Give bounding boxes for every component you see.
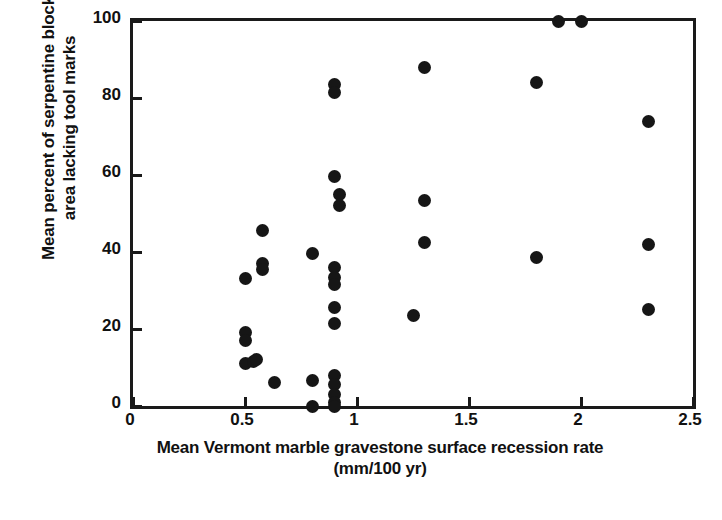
data-point: [328, 301, 341, 314]
x-tick-label: 2: [573, 410, 582, 430]
y-tick-label: 0: [112, 393, 121, 413]
data-point: [250, 353, 263, 366]
x-axis-tick: [356, 397, 359, 406]
x-tick-label: 2.5: [678, 410, 702, 430]
x-axis-tick: [692, 397, 695, 406]
data-point: [552, 15, 565, 28]
y-axis-tick: [133, 97, 142, 100]
y-axis-tick: [133, 174, 142, 177]
data-point: [530, 76, 543, 89]
x-axis-title-line1: Mean Vermont marble gravestone surface r…: [60, 437, 700, 458]
y-tick-label: 60: [102, 162, 121, 182]
data-point: [239, 272, 252, 285]
y-tick-label: 100: [93, 8, 121, 28]
data-point: [407, 309, 420, 322]
x-tick-label: 0.5: [230, 410, 254, 430]
data-point: [418, 61, 431, 74]
scatter-plot-figure: Mean percent of serpentine block area la…: [0, 0, 722, 520]
data-point: [328, 317, 341, 330]
data-point: [239, 334, 252, 347]
plot-area: [130, 18, 696, 409]
x-axis-tick-labels: 00.511.522.5: [130, 410, 690, 434]
y-axis-tick-labels: 020406080100: [58, 18, 121, 403]
data-point: [328, 170, 341, 183]
y-axis-title-line1: Mean percent of serpentine block: [39, 0, 60, 260]
y-axis-tick: [133, 251, 142, 254]
x-tick-label: 1.5: [454, 410, 478, 430]
data-point: [418, 236, 431, 249]
y-tick-label: 20: [102, 316, 121, 336]
data-point: [333, 199, 346, 212]
data-point: [642, 115, 655, 128]
x-tick-label: 0: [125, 410, 134, 430]
data-point: [306, 247, 319, 260]
y-axis-tick: [133, 20, 142, 23]
plot-inner: [133, 21, 693, 406]
y-tick-label: 80: [102, 85, 121, 105]
data-point: [328, 86, 341, 99]
x-axis-title: Mean Vermont marble gravestone surface r…: [60, 437, 700, 480]
data-point: [256, 263, 269, 276]
data-point: [575, 15, 588, 28]
x-axis-tick: [132, 397, 135, 406]
y-axis-tick: [133, 328, 142, 331]
x-axis-tick: [468, 397, 471, 406]
x-axis-tick: [244, 397, 247, 406]
data-point: [530, 251, 543, 264]
data-point: [642, 303, 655, 316]
x-tick-label: 1: [349, 410, 358, 430]
x-axis-title-line2: (mm/100 yr): [60, 458, 700, 479]
data-point: [256, 224, 269, 237]
y-tick-label: 40: [102, 239, 121, 259]
data-point: [328, 278, 341, 291]
data-point: [268, 376, 281, 389]
data-point: [418, 194, 431, 207]
x-axis-tick: [580, 397, 583, 406]
data-point: [306, 374, 319, 387]
data-point: [642, 238, 655, 251]
